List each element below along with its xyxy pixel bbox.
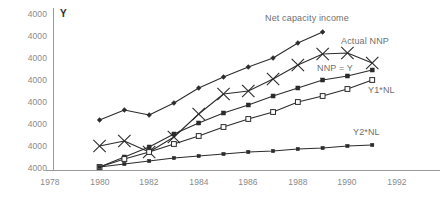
- series-net-capacity-income: [97, 30, 325, 123]
- data-point-filled-square: [222, 111, 226, 115]
- chart-plot-area: [0, 0, 444, 201]
- series-y1-nl: [97, 78, 374, 170]
- series-label-nnp-equals-y: NNP = Y: [317, 63, 353, 73]
- data-point-small-filled-square: [98, 165, 101, 168]
- data-point-filled-diamond: [147, 113, 152, 118]
- data-point-open-square: [271, 110, 276, 115]
- y-tick-label: 4000: [13, 9, 47, 19]
- x-tick-label: 1988: [278, 177, 318, 187]
- data-point-filled-square: [296, 86, 300, 90]
- x-tick-label: 1990: [327, 177, 367, 187]
- data-point-small-filled-square: [271, 149, 274, 152]
- data-point-open-square: [246, 117, 251, 122]
- data-point-filled-diamond: [320, 30, 325, 35]
- x-tick-label: 1986: [228, 177, 268, 187]
- data-point-open-square: [172, 142, 177, 147]
- data-point-x-cross: [118, 135, 130, 147]
- y-tick-label: 4000: [13, 163, 47, 173]
- data-point-x-cross: [292, 59, 304, 71]
- data-point-filled-square: [345, 74, 349, 78]
- y-tick-label: 4000: [13, 31, 47, 41]
- data-point-open-square: [370, 78, 375, 83]
- x-tick-label: 1984: [179, 177, 219, 187]
- data-point-filled-diamond: [97, 118, 102, 123]
- y-tick-label: 4000: [13, 75, 47, 85]
- series-layer: [93, 30, 378, 170]
- x-tick-label: 1978: [30, 177, 70, 187]
- data-point-open-square: [345, 87, 350, 92]
- data-point-open-square: [320, 94, 325, 99]
- chart-container: Y 4000 4000 4000 4000 4000 4000 4000 400…: [0, 0, 444, 201]
- data-point-small-filled-square: [222, 152, 225, 155]
- data-point-open-square: [295, 100, 300, 105]
- data-point-small-filled-square: [371, 143, 374, 146]
- data-point-small-filled-square: [296, 147, 299, 150]
- data-point-open-square: [122, 157, 127, 162]
- data-point-filled-square: [172, 132, 176, 136]
- series-label-net-capacity-income: Net capacity income: [265, 13, 349, 23]
- x-tick-label: 1982: [129, 177, 169, 187]
- series-nnp-y: [98, 68, 375, 169]
- series-label-y2-nl: Y2*NL: [353, 127, 380, 137]
- data-point-filled-square: [321, 78, 325, 82]
- y-axis-title: Y: [60, 8, 67, 19]
- y-tick-label: 4000: [13, 141, 47, 151]
- data-point-x-cross: [93, 140, 105, 152]
- data-point-filled-square: [271, 94, 275, 98]
- y-tick-label: 4000: [13, 119, 47, 129]
- series-label-actual-nnp: Actual NNP: [341, 36, 389, 46]
- data-point-small-filled-square: [123, 162, 126, 165]
- data-point-x-cross: [366, 57, 378, 69]
- data-point-filled-diamond: [196, 86, 201, 91]
- data-point-small-filled-square: [197, 154, 200, 157]
- data-point-filled-diamond: [172, 101, 177, 106]
- x-tick-label: 1992: [377, 177, 417, 187]
- data-point-small-filled-square: [346, 144, 349, 147]
- y-tick-label: 4000: [13, 97, 47, 107]
- data-point-small-filled-square: [172, 156, 175, 159]
- data-point-open-square: [196, 134, 201, 139]
- data-point-open-square: [221, 125, 226, 130]
- data-point-filled-square: [197, 121, 201, 125]
- data-point-filled-diamond: [122, 108, 127, 113]
- data-point-filled-square: [147, 145, 151, 149]
- data-point-filled-diamond: [246, 65, 251, 70]
- data-point-small-filled-square: [247, 150, 250, 153]
- x-tick-label: 1980: [80, 177, 120, 187]
- y-tick-label: 4000: [13, 53, 47, 63]
- data-point-x-cross: [193, 108, 205, 120]
- data-point-open-square: [147, 150, 152, 155]
- data-point-filled-diamond: [271, 56, 276, 61]
- data-point-filled-square: [370, 68, 374, 72]
- data-point-filled-diamond: [295, 41, 300, 46]
- data-point-filled-diamond: [221, 75, 226, 80]
- data-point-small-filled-square: [321, 146, 324, 149]
- data-point-small-filled-square: [147, 159, 150, 162]
- data-point-x-cross: [267, 73, 279, 85]
- data-point-filled-square: [246, 103, 250, 107]
- series-label-y1-nl: Y1*NL: [368, 85, 395, 95]
